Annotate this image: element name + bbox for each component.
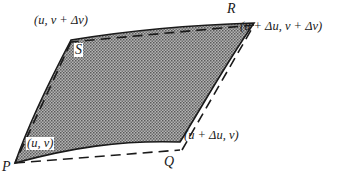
label-p: P bbox=[2, 160, 11, 174]
label-p-coords: (u, v) bbox=[26, 137, 54, 150]
label-q: Q bbox=[164, 155, 174, 169]
label-q-coords: (u + Δu, v) bbox=[184, 129, 239, 142]
label-s: S bbox=[74, 43, 83, 57]
label-r: R bbox=[227, 2, 236, 16]
label-s-coords: (u, v + Δv) bbox=[34, 14, 88, 27]
label-r-coords: (u + Δu, v + Δv) bbox=[240, 20, 322, 33]
